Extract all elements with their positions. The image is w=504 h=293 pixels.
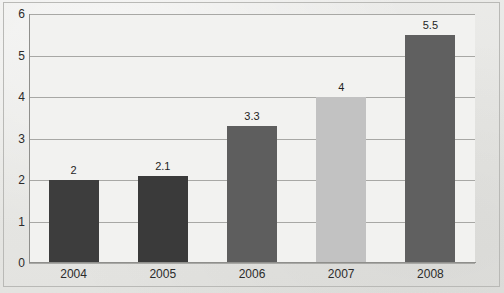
bar-column: 5.5 — [386, 14, 475, 263]
x-axis-tick-label: 2004 — [29, 268, 118, 280]
chart-page: 22.13.345.5 0123456 20042005200620072008 — [0, 0, 504, 293]
bar — [138, 176, 188, 263]
bar-value-label: 5.5 — [386, 20, 475, 31]
bar — [227, 126, 277, 263]
y-axis-tick-label: 0 — [3, 257, 25, 269]
bar — [316, 97, 366, 263]
bar-column: 3.3 — [207, 14, 296, 263]
bar-column: 4 — [297, 14, 386, 263]
y-axis-tick-label: 4 — [3, 91, 25, 103]
plot-area: 22.13.345.5 — [29, 14, 475, 263]
bar-column: 2 — [29, 14, 118, 263]
bar-column: 2.1 — [118, 14, 207, 263]
y-axis-tick-label: 1 — [3, 216, 25, 228]
y-axis-tick-label: 5 — [3, 50, 25, 62]
y-axis-tick-labels: 0123456 — [0, 0, 25, 293]
x-axis-tick-label: 2006 — [207, 268, 296, 280]
y-axis-tick-label: 3 — [3, 133, 25, 145]
y-axis-line — [29, 14, 30, 263]
bar — [405, 35, 455, 263]
bar — [49, 180, 99, 263]
x-axis-tick-label: 2005 — [118, 268, 207, 280]
x-axis-line — [29, 262, 476, 263]
y-axis-tick-label: 6 — [3, 8, 25, 20]
gridline — [29, 263, 475, 264]
x-axis-tick-label: 2007 — [297, 268, 386, 280]
bar-value-label: 2.1 — [118, 161, 207, 172]
x-axis-tick-label: 2008 — [386, 268, 475, 280]
y-axis-tick-label: 2 — [3, 174, 25, 186]
bar-value-label: 2 — [29, 165, 118, 176]
bar-value-label: 4 — [297, 82, 386, 93]
bar-value-label: 3.3 — [207, 111, 296, 122]
